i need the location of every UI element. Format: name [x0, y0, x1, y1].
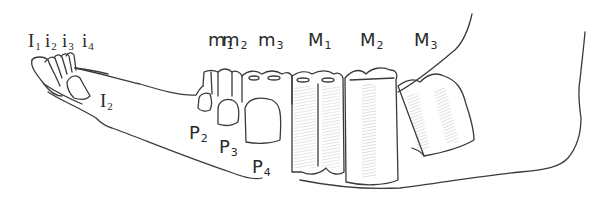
jaw-upper-outline	[75, 68, 203, 95]
label-incisor-erupting: I2	[100, 91, 113, 112]
molar-M3-drawing	[398, 74, 474, 156]
label-premolar-4: P4	[252, 158, 271, 178]
label-incisor-4: i4	[82, 31, 94, 52]
label-molar-2: M2	[360, 31, 384, 51]
molar-M2-drawing	[345, 68, 398, 185]
label-milk-molar-2: m2	[222, 31, 248, 51]
label-milk-molar-3: m3	[258, 31, 284, 51]
label-premolar-2: P2	[189, 124, 208, 144]
label-premolar-3: P3	[219, 138, 238, 158]
label-molar-3: M3	[414, 31, 438, 51]
incisors-drawing	[32, 53, 108, 104]
label-incisor-3: i3	[62, 31, 74, 52]
label-molar-1: M1	[308, 31, 332, 51]
label-incisor-2: i2	[45, 31, 57, 52]
label-incisor-1: I1	[28, 31, 41, 52]
molar-M1-drawing	[292, 71, 344, 174]
milk-molars-drawing	[198, 69, 292, 143]
jaw-diagram: I1 i2 i3 i4 I2 m1 m2 m3 M1 M2 M3 P2 P3 P…	[0, 0, 602, 207]
